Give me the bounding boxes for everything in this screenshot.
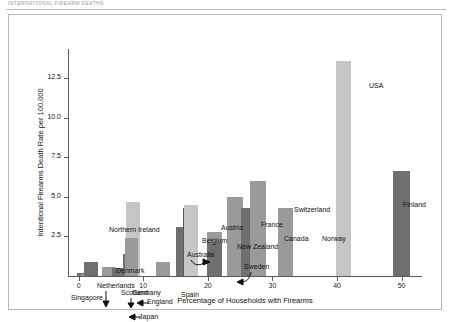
x-tick-mark <box>143 277 144 281</box>
y-tick-mark <box>64 157 68 158</box>
x-tick-label: 40 <box>333 282 341 289</box>
page-header-text: INTERNATIONAL FIREARM DEATHS <box>8 0 104 6</box>
x-axis-line <box>68 276 422 277</box>
y-tick-label: 12.5 <box>47 73 61 80</box>
annotation-arrows <box>69 51 421 276</box>
y-axis-title: Intentional Firearms Death Rate per 100,… <box>33 55 47 270</box>
x-tick-label: 10 <box>139 282 147 289</box>
x-tick-mark <box>402 277 403 281</box>
x-tick-mark <box>272 277 273 281</box>
x-tick-label: 30 <box>269 282 277 289</box>
x-tick-label: 50 <box>398 282 406 289</box>
bar-label-netherlands: Netherlands <box>97 282 135 289</box>
bar-label-japan: Japan <box>139 313 158 320</box>
x-tick-mark <box>79 277 80 281</box>
chart-frame: Intentional Firearms Death Rate per 100,… <box>8 14 442 310</box>
x-tick-mark <box>337 277 338 281</box>
x-tick-label: 20 <box>204 282 212 289</box>
x-tick-mark <box>208 277 209 281</box>
y-tick-mark <box>64 78 68 79</box>
y-axis-title-text: Intentional Firearms Death Rate per 100,… <box>36 88 45 236</box>
bar-label-germany: Germany <box>132 289 161 296</box>
y-tick-mark <box>64 197 68 198</box>
y-tick-mark <box>64 236 68 237</box>
y-tick-label: 10.0 <box>47 113 61 120</box>
y-tick-mark <box>64 118 68 119</box>
header-divider <box>6 9 446 10</box>
y-tick-label: 5.0 <box>51 192 61 199</box>
plot-area: SingaporeJapanNetherlandsScotlandEngland… <box>69 51 421 276</box>
x-axis-title: Percentage of Households with Firearms <box>68 296 422 305</box>
x-tick-label: 0 <box>77 282 81 289</box>
chart-page: INTERNATIONAL FIREARM DEATHS Intentional… <box>0 0 452 322</box>
y-tick-label: 7.5 <box>51 152 61 159</box>
y-tick-label: 2.5 <box>51 231 61 238</box>
